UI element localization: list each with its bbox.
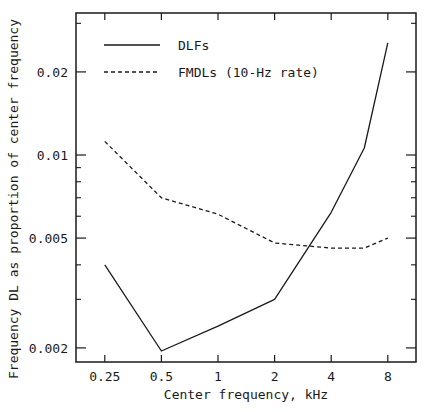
fmdls-line <box>105 141 388 248</box>
y-tick-label: 0.02 <box>37 65 68 80</box>
chart: 0.250.51248 0.0020.0050.010.02 DLFs FMDL… <box>0 0 427 412</box>
data-series <box>105 43 388 351</box>
x-tick-label: 0.25 <box>89 369 120 384</box>
y-tick-label: 0.002 <box>29 341 68 356</box>
y-axis-title: Frequency DL as proportion of center fre… <box>6 19 21 379</box>
x-tick-label: 2 <box>271 369 279 384</box>
dlfs-line <box>105 43 388 351</box>
y-tick-label: 0.01 <box>37 148 68 163</box>
x-tick-label: 0.5 <box>150 369 173 384</box>
legend-label-dlfs: DLFs <box>178 38 209 53</box>
x-tick-label: 4 <box>327 369 335 384</box>
x-tick-label: 8 <box>384 369 392 384</box>
legend-label-fmdls: FMDLs (10-Hz rate) <box>178 65 319 80</box>
x-tick-label: 1 <box>214 369 222 384</box>
y-tick-label: 0.005 <box>29 231 68 246</box>
legend: DLFs FMDLs (10-Hz rate) <box>104 38 319 80</box>
x-axis-title: Center frequency, kHz <box>164 387 328 402</box>
